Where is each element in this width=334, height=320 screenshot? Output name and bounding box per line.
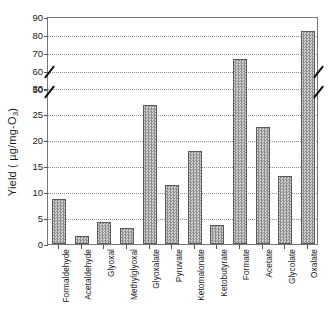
y-axis-tick-label: 80 [32,31,43,41]
y-axis-tick-label: 0 [38,240,43,250]
y-axis-title: Yield ( µg/mg-O3) [6,67,20,237]
gridline [48,89,317,90]
bar [233,89,247,244]
y-axis-title-subscript: 3 [11,112,20,117]
gridline [48,54,317,55]
bar-upper-segment [233,59,247,89]
gridline [48,141,317,142]
gridline [48,72,317,73]
bar [165,185,179,244]
y-axis-tick [44,167,48,168]
x-axis-tick [126,245,127,249]
x-axis-category-label: Acetaldehyde [84,249,93,300]
y-axis-tick [44,193,48,194]
y-axis-tick [44,36,48,37]
x-axis-tick [149,245,150,249]
x-axis-category-label: Pyruvate [175,249,184,282]
bar-upper-segment [301,31,315,89]
x-axis-tick [307,245,308,249]
x-axis-tick [58,245,59,249]
bar-chart-figure: Yield ( µg/mg-O3) 5060708090 05101520253… [0,0,334,320]
bar [301,89,315,244]
y-axis-tick-label: 60 [32,67,43,77]
bar [188,151,202,244]
y-axis-tick-label: 20 [32,136,43,146]
y-axis-tick [44,54,48,55]
x-axis-tick [81,245,82,249]
bar [256,127,270,244]
y-axis-tick-label: 5 [38,214,43,224]
bar [52,199,66,244]
x-axis-tick [171,245,172,249]
x-axis-tick [216,245,217,249]
gridline [48,167,317,168]
bar [278,176,292,244]
bar [210,225,224,244]
y-axis-tick-label: 25 [32,110,43,120]
y-axis-tick [44,245,48,246]
x-axis-tick [103,245,104,249]
bar [143,105,157,244]
y-axis-tick [44,89,48,90]
upper-plot-panel: 5060708090 [47,17,318,89]
x-axis-tick [262,245,263,249]
y-axis-tick [44,141,48,142]
y-axis-tick-label: 70 [32,49,43,59]
x-axis-category-label: Methylglyoxal [130,249,139,300]
y-axis-tick-label: 15 [32,162,43,172]
x-axis-tick [194,245,195,249]
y-axis-tick [44,219,48,220]
y-axis-tick [44,18,48,19]
x-axis-category-label: Glycolate [288,249,297,284]
bar [120,228,134,244]
gridline [48,115,317,116]
x-axis-tick [239,245,240,249]
y-axis-tick-label: 90 [32,13,43,23]
y-axis-title-container: Yield ( µg/mg-O3) [0,60,26,250]
x-axis-category-label: Formaldehyde [62,249,71,303]
x-axis-category-label: Formate [242,249,251,280]
y-axis-tick [44,115,48,116]
y-axis-title-suffix: ) [6,108,18,112]
upper-plot-area [48,18,317,89]
x-axis-category-labels: FormaldehydeAcetaldehydeGlyoxalMethylgly… [47,249,318,320]
x-axis-category-label: Glyoxalate [152,249,161,289]
bar [75,236,89,244]
gridline [48,36,317,37]
x-axis-category-label: Acetate [265,249,274,277]
lower-plot-area [48,89,317,244]
x-axis-category-label: Ketomalonate [197,249,206,301]
gridline [48,193,317,194]
x-axis-category-label: Ketobutyrate [220,249,229,297]
bar [97,222,111,244]
y-axis-tick-label: 10 [32,188,43,198]
x-axis-tick [284,245,285,249]
lower-plot-panel: 051015202530 [47,89,318,245]
y-axis-tick-label: 30 [32,84,43,94]
x-axis-category-label: Glyoxal [107,249,116,277]
y-axis-title-text: Yield ( µg/mg-O [6,116,18,196]
x-axis-category-label: Oxalate [310,249,319,278]
gridline [48,219,317,220]
